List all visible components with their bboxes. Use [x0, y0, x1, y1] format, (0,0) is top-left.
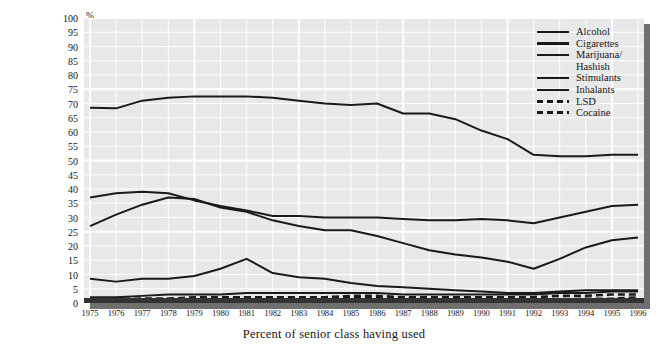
- legend-swatch: [536, 96, 570, 108]
- y-tick-label: 85: [52, 55, 78, 66]
- series-line: [90, 259, 638, 293]
- y-tick-label: 45: [52, 169, 78, 180]
- x-axis-line: [84, 298, 644, 303]
- y-tick-label: 10: [52, 269, 78, 280]
- y-tick-label: 70: [52, 98, 78, 109]
- chart-legend: AlcoholCigarettesMarijuana/HashishStimul…: [536, 26, 622, 119]
- legend-label: LSD: [576, 96, 596, 108]
- y-tick-label: 80: [52, 70, 78, 81]
- legend-swatch: [536, 26, 570, 38]
- legend-label-continuation: Hashish: [536, 61, 622, 73]
- y-tick-label: 90: [52, 41, 78, 52]
- series-line: [90, 198, 638, 269]
- y-tick-label: 40: [52, 184, 78, 195]
- y-tick-label: 15: [52, 255, 78, 266]
- plot-shadow-right: [644, 24, 650, 309]
- legend-item: Marijuana/: [536, 49, 622, 61]
- x-axis-label: Percent of senior class having used: [0, 327, 668, 342]
- series-line: [90, 192, 638, 223]
- legend-item: Cigarettes: [536, 38, 622, 50]
- x-tick-label: 1996: [623, 308, 653, 318]
- y-tick-label: 20: [52, 241, 78, 252]
- y-tick-label: 30: [52, 212, 78, 223]
- y-tick-label: 100: [52, 13, 78, 24]
- legend-label: Marijuana/: [576, 49, 622, 61]
- y-tick-label: 35: [52, 198, 78, 209]
- y-tick-label: 25: [52, 226, 78, 237]
- y-tick-label: 60: [52, 127, 78, 138]
- legend-label: Inhalants: [576, 84, 615, 96]
- legend-label: Alcohol: [576, 26, 610, 38]
- y-tick-label: 50: [52, 155, 78, 166]
- y-tick-label: 55: [52, 141, 78, 152]
- y-tick-label: 65: [52, 112, 78, 123]
- legend-swatch: [536, 38, 570, 50]
- legend-item: Inhalants: [536, 84, 622, 96]
- y-tick-label: 0: [52, 298, 78, 309]
- legend-item: Stimulants: [536, 72, 622, 84]
- legend-item: LSD: [536, 96, 622, 108]
- legend-swatch: [536, 84, 570, 96]
- y-tick-label: 5: [52, 283, 78, 294]
- legend-label: Cocaine: [576, 107, 610, 119]
- legend-label: Stimulants: [576, 72, 621, 84]
- legend-label: Cigarettes: [576, 38, 619, 50]
- y-tick-label: 95: [52, 27, 78, 38]
- legend-item: Alcohol: [536, 26, 622, 38]
- y-tick-label: 75: [52, 84, 78, 95]
- chart-figure: Percentage of 16- and 17-year-old studen…: [0, 0, 668, 347]
- legend-swatch: [536, 49, 570, 61]
- legend-item: Cocaine: [536, 107, 622, 119]
- legend-swatch: [536, 72, 570, 84]
- y-axis-ticks: 0510152025303540455055606570758085909510…: [52, 0, 78, 347]
- legend-swatch: [536, 107, 570, 119]
